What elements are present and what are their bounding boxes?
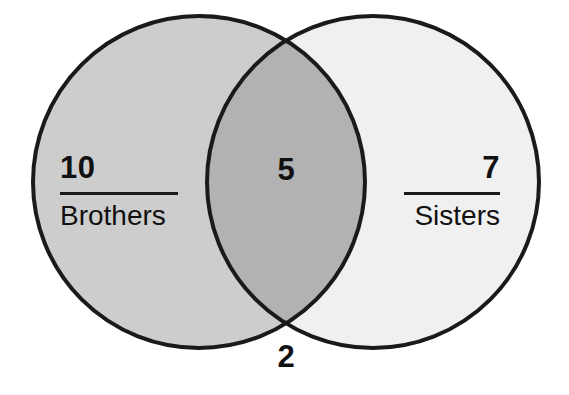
venn-circles-svg (0, 0, 569, 395)
venn-diagram: 10 Brothers 7 Sisters 5 2 (0, 0, 569, 395)
